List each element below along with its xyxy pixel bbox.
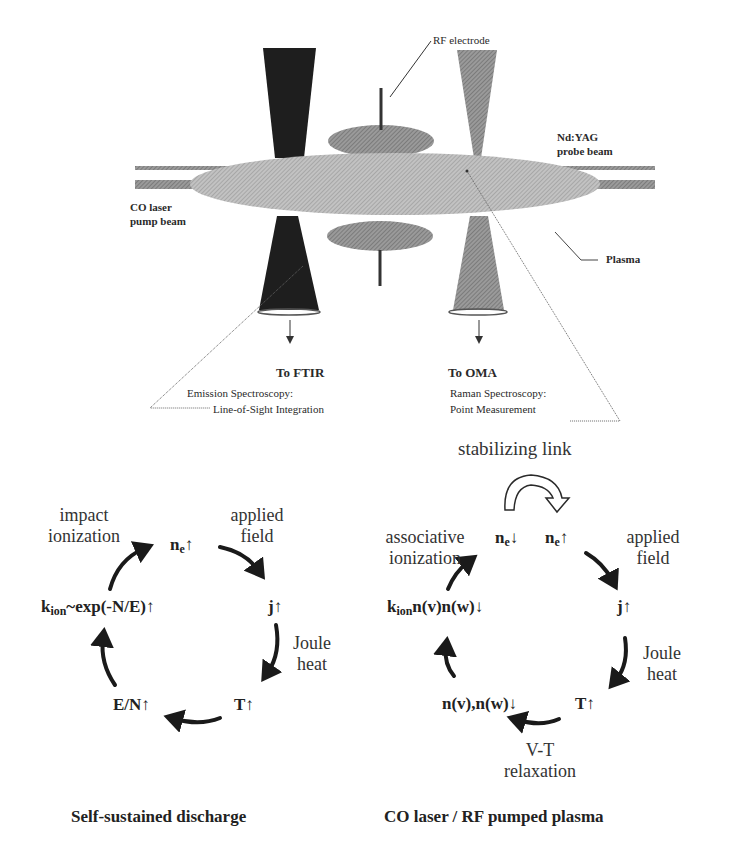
- ftir-cone-top: [263, 48, 316, 158]
- nd-yag-label-line2: probe beam: [557, 145, 613, 157]
- node-j-left: j↑: [268, 597, 282, 617]
- node-t-right: T↑: [575, 694, 595, 714]
- plasma-leader: [555, 232, 598, 260]
- node-ne-left: ne↑: [170, 535, 193, 557]
- node-ne-up: ne↑: [545, 528, 568, 550]
- oma-cone-top: [457, 50, 497, 158]
- raman-label-line2: Point Measurement: [450, 403, 536, 415]
- nd-yag-label-line1: Nd:YAG: [557, 131, 598, 143]
- to-oma-label: To OMA: [448, 365, 497, 381]
- stabilizing-link-arrow: [505, 475, 569, 512]
- applied-field-label-left: applied field: [222, 505, 292, 547]
- rf-electrode-bottom: [327, 221, 433, 251]
- node-ne-down: ne↓: [495, 528, 518, 550]
- node-t-left: T↑: [234, 695, 254, 715]
- co-laser-label-line1: CO laser: [130, 201, 172, 213]
- stabilizing-link-label: stabilizing link: [458, 438, 571, 459]
- emission-label-line1: Emission Spectroscopy:: [187, 387, 293, 399]
- node-en-left: E/N↑: [113, 695, 150, 715]
- vt-relaxation-label: V-T relaxation: [495, 740, 585, 782]
- emission-label-line2: Line-of-Sight Integration: [213, 403, 324, 415]
- right-cycle-title: CO laser / RF pumped plasma: [384, 807, 604, 827]
- plasma-label: Plasma: [606, 253, 640, 265]
- node-kion-right: kionn(v)n(w)↓: [387, 597, 483, 619]
- joule-heat-label-right: Joule heat: [638, 643, 686, 685]
- plasma-region: [190, 153, 600, 215]
- to-ftir-label: To FTIR: [276, 365, 324, 381]
- rf-electrode-label: RF electrode: [433, 34, 490, 46]
- co-laser-label-line2: pump beam: [130, 215, 186, 227]
- node-kion-left: kion~exp(-N/E)↑: [41, 597, 155, 619]
- joule-heat-label-left: Joule heat: [288, 633, 336, 675]
- left-cycle-title: Self-sustained discharge: [71, 807, 246, 827]
- applied-field-label-right: applied field: [617, 527, 689, 569]
- apparatus-diagram: [0, 0, 733, 849]
- impact-ionization-label: impact ionization: [44, 505, 124, 547]
- oma-cone-bottom: [453, 216, 504, 310]
- associative-ionization-label: associative ionization: [380, 527, 470, 569]
- ftir-cone-bottom: [259, 216, 319, 310]
- node-nvnw-right: n(v),n(w)↓: [442, 694, 517, 714]
- raman-label-line1: Raman Spectroscopy:: [450, 387, 546, 399]
- node-j-right: j↑: [617, 597, 631, 617]
